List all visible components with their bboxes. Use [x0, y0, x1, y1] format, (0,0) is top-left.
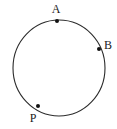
point-marker-p [36, 104, 40, 108]
point-label-b: B [104, 39, 112, 51]
point-marker-a [55, 19, 59, 23]
point-label-a: A [52, 3, 61, 15]
circle-shape [13, 20, 105, 116]
point-label-p: P [30, 112, 37, 124]
geometry-figure: A B P [0, 0, 117, 129]
figure-canvas [0, 0, 117, 129]
point-marker-b [97, 47, 101, 51]
